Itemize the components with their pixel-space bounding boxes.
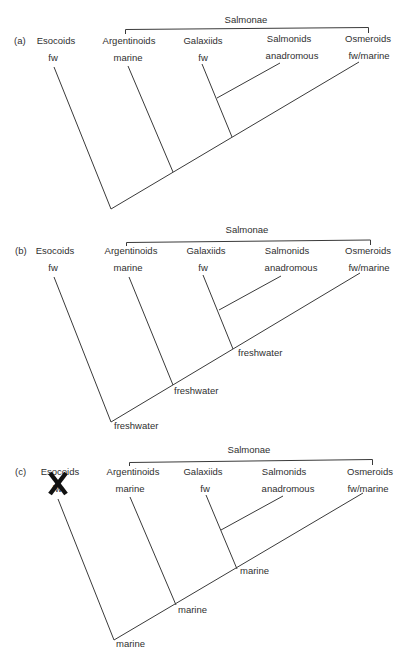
panel-label: (c) xyxy=(15,466,26,477)
clade-label: Salmonae xyxy=(226,224,269,235)
panel-label: (b) xyxy=(15,245,27,256)
branch-backbone xyxy=(111,273,360,422)
taxon-name: Salmonids xyxy=(265,245,310,256)
taxon-habitat: anadromous xyxy=(265,262,318,273)
panel-b: (b) Salmonae Esocoids fw Argentinoids ma… xyxy=(15,224,391,431)
taxon-habitat: marine xyxy=(115,483,144,494)
taxon-name: Galaxiids xyxy=(186,245,225,256)
branch-esocoids xyxy=(58,499,114,640)
ancestral-state-node-3: freshwater xyxy=(238,347,282,358)
branch-salmonids xyxy=(221,496,283,530)
taxon-name: Galaxiids xyxy=(183,35,222,46)
taxon-name: Osmeroids xyxy=(347,466,393,477)
branch-backbone xyxy=(114,493,363,640)
clade-bracket xyxy=(127,240,371,246)
panel-a: (a) Salmonae Esocoids fw Argentinoids ma… xyxy=(14,14,391,209)
taxon-habitat: fw/marine xyxy=(347,483,388,494)
taxon-habitat: fw xyxy=(48,262,58,273)
ancestral-state-node-3: marine xyxy=(240,565,269,576)
phylogeny-figure: (a) Salmonae Esocoids fw Argentinoids ma… xyxy=(0,0,404,658)
taxon-name: Osmeroids xyxy=(345,33,391,44)
branch-salmonids xyxy=(217,63,280,98)
taxon-name: Esocoids xyxy=(37,35,76,46)
branch-galaxiids xyxy=(203,275,233,349)
panel-label: (a) xyxy=(14,35,26,46)
taxon-name: Argentinoids xyxy=(103,35,156,46)
branch-esocoids xyxy=(54,67,111,209)
clade-bracket xyxy=(130,460,373,467)
branch-esocoids xyxy=(54,277,111,422)
taxon-habitat: fw/marine xyxy=(348,50,389,61)
taxon-habitat: marine xyxy=(113,262,142,273)
branch-salmonids xyxy=(219,276,281,310)
ancestral-state-root: marine xyxy=(116,638,145,649)
taxon-name: Argentinoids xyxy=(107,466,160,477)
taxon-name: Salmonids xyxy=(262,466,307,477)
taxon-name: Osmeroids xyxy=(345,245,391,256)
panel-c: (c) Salmonae Esocoids fw Argentinoids ma… xyxy=(15,444,393,649)
taxon-habitat: marine xyxy=(113,52,142,63)
taxon-name: Argentinoids xyxy=(105,245,158,256)
taxon-habitat: fw xyxy=(198,262,208,273)
taxon-habitat: anadromous xyxy=(266,50,319,61)
taxon-habitat: fw xyxy=(198,52,208,63)
clade-label: Salmonae xyxy=(225,14,268,25)
taxon-habitat: fw xyxy=(200,483,210,494)
branch-galaxiids xyxy=(206,495,237,569)
taxon-name: Galaxiids xyxy=(183,466,222,477)
ancestral-state-node-2: freshwater xyxy=(174,385,218,396)
branch-argentinoids xyxy=(129,277,173,385)
taxon-name: Salmonids xyxy=(267,33,312,44)
clade-label: Salmonae xyxy=(228,444,271,455)
branch-galaxiids xyxy=(202,64,232,137)
clade-bracket xyxy=(126,28,369,35)
branch-backbone xyxy=(111,62,359,209)
branch-argentinoids xyxy=(128,66,173,172)
branch-argentinoids xyxy=(130,497,176,605)
ancestral-state-root: freshwater xyxy=(114,420,158,431)
taxon-habitat: fw xyxy=(48,52,58,63)
taxon-name: Esocoids xyxy=(36,245,75,256)
ancestral-state-node-2: marine xyxy=(178,604,207,615)
taxon-habitat: anadromous xyxy=(262,483,315,494)
taxon-habitat: fw/marine xyxy=(348,262,389,273)
taxon-name: Esocoids xyxy=(41,466,80,477)
